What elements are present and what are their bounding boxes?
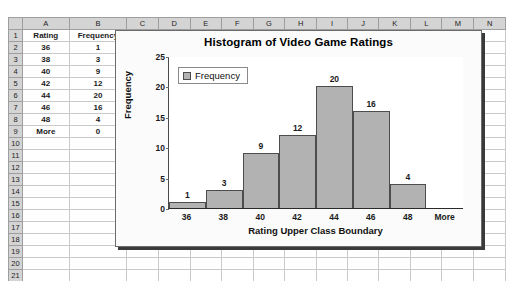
column-header-b[interactable]: B — [69, 18, 127, 30]
bar[interactable] — [243, 153, 280, 208]
cell-e21[interactable] — [190, 270, 222, 281]
cell-a12[interactable] — [23, 162, 70, 174]
row-header-14[interactable]: 14 — [9, 186, 23, 198]
cell-d19[interactable] — [158, 246, 190, 258]
cell-j19[interactable] — [348, 246, 379, 258]
cell-a17[interactable] — [23, 222, 70, 234]
cell-h21[interactable] — [285, 270, 317, 281]
row-header-2[interactable]: 2 — [9, 42, 23, 54]
cell-g20[interactable] — [253, 258, 285, 270]
row-header-7[interactable]: 7 — [9, 102, 23, 114]
cell-n19[interactable] — [474, 246, 506, 258]
cell-l20[interactable] — [411, 258, 442, 270]
row-header-11[interactable]: 11 — [9, 150, 23, 162]
column-header-g[interactable]: G — [253, 18, 285, 30]
cell-j20[interactable] — [348, 258, 379, 270]
row-header-3[interactable]: 3 — [9, 54, 23, 66]
cell-m19[interactable] — [442, 246, 474, 258]
cell-m20[interactable] — [442, 258, 474, 270]
cell-a1[interactable]: Rating — [23, 30, 70, 42]
row-header-19[interactable]: 19 — [9, 246, 23, 258]
cell-a3[interactable]: 38 — [23, 54, 70, 66]
column-header-i[interactable]: I — [316, 18, 347, 30]
cell-a4[interactable]: 40 — [23, 66, 70, 78]
select-all-corner[interactable] — [9, 18, 23, 30]
cell-l21[interactable] — [411, 270, 442, 281]
cell-c19[interactable] — [127, 246, 159, 258]
cell-a16[interactable] — [23, 210, 70, 222]
row-header-18[interactable]: 18 — [9, 234, 23, 246]
cell-j21[interactable] — [348, 270, 379, 281]
row-header-9[interactable]: 9 — [9, 126, 23, 138]
cell-b21[interactable] — [69, 270, 127, 281]
cell-a18[interactable] — [23, 234, 70, 246]
cell-i21[interactable] — [316, 270, 347, 281]
cell-f19[interactable] — [222, 246, 254, 258]
cell-a7[interactable]: 46 — [23, 102, 70, 114]
row-header-15[interactable]: 15 — [9, 198, 23, 210]
cell-g21[interactable] — [253, 270, 285, 281]
column-header-c[interactable]: C — [127, 18, 159, 30]
row-header-21[interactable]: 21 — [9, 270, 23, 281]
cell-c21[interactable] — [127, 270, 159, 281]
cell-n21[interactable] — [474, 270, 506, 281]
row-header-13[interactable]: 13 — [9, 174, 23, 186]
bar[interactable] — [353, 111, 390, 208]
cell-f20[interactable] — [222, 258, 254, 270]
cell-e20[interactable] — [190, 258, 222, 270]
cell-k19[interactable] — [379, 246, 411, 258]
cell-a20[interactable] — [23, 258, 70, 270]
cell-d21[interactable] — [158, 270, 190, 281]
cell-a19[interactable] — [23, 246, 70, 258]
cell-m21[interactable] — [442, 270, 474, 281]
row-header-12[interactable]: 12 — [9, 162, 23, 174]
row-header-17[interactable]: 17 — [9, 222, 23, 234]
cell-a5[interactable]: 42 — [23, 78, 70, 90]
cell-i19[interactable] — [316, 246, 347, 258]
cell-a13[interactable] — [23, 174, 70, 186]
cell-k21[interactable] — [379, 270, 411, 281]
cell-i20[interactable] — [316, 258, 347, 270]
row-header-6[interactable]: 6 — [9, 90, 23, 102]
cell-a21[interactable] — [23, 270, 70, 281]
row-header-1[interactable]: 1 — [9, 30, 23, 42]
cell-f21[interactable] — [222, 270, 254, 281]
cell-e19[interactable] — [190, 246, 222, 258]
cell-c20[interactable] — [127, 258, 159, 270]
chart-legend[interactable]: Frequency — [178, 67, 248, 84]
column-header-m[interactable]: M — [442, 18, 474, 30]
cell-a2[interactable]: 36 — [23, 42, 70, 54]
cell-g19[interactable] — [253, 246, 285, 258]
row-header-20[interactable]: 20 — [9, 258, 23, 270]
cell-a11[interactable] — [23, 150, 70, 162]
cell-a14[interactable] — [23, 186, 70, 198]
cell-d20[interactable] — [158, 258, 190, 270]
column-header-h[interactable]: H — [285, 18, 317, 30]
column-header-d[interactable]: D — [158, 18, 190, 30]
bar[interactable] — [390, 184, 427, 208]
cell-h20[interactable] — [285, 258, 317, 270]
bar[interactable] — [279, 135, 316, 208]
cell-b20[interactable] — [69, 258, 127, 270]
column-header-k[interactable]: K — [379, 18, 411, 30]
column-header-n[interactable]: N — [474, 18, 506, 30]
row-header-16[interactable]: 16 — [9, 210, 23, 222]
cell-a9[interactable]: More — [23, 126, 70, 138]
column-header-a[interactable]: A — [23, 18, 70, 30]
cell-a6[interactable]: 44 — [23, 90, 70, 102]
bar[interactable] — [169, 202, 206, 208]
cell-b19[interactable] — [69, 246, 127, 258]
row-header-8[interactable]: 8 — [9, 114, 23, 126]
cell-a10[interactable] — [23, 138, 70, 150]
row-header-5[interactable]: 5 — [9, 78, 23, 90]
cell-a15[interactable] — [23, 198, 70, 210]
cell-a8[interactable]: 48 — [23, 114, 70, 126]
row-header-4[interactable]: 4 — [9, 66, 23, 78]
bar[interactable] — [316, 86, 353, 208]
column-header-j[interactable]: J — [348, 18, 379, 30]
row-header-10[interactable]: 10 — [9, 138, 23, 150]
column-header-e[interactable]: E — [190, 18, 222, 30]
chart-object[interactable]: Histogram of Video Game Ratings Frequenc… — [115, 30, 482, 247]
column-header-l[interactable]: L — [411, 18, 442, 30]
bar[interactable] — [206, 190, 243, 208]
